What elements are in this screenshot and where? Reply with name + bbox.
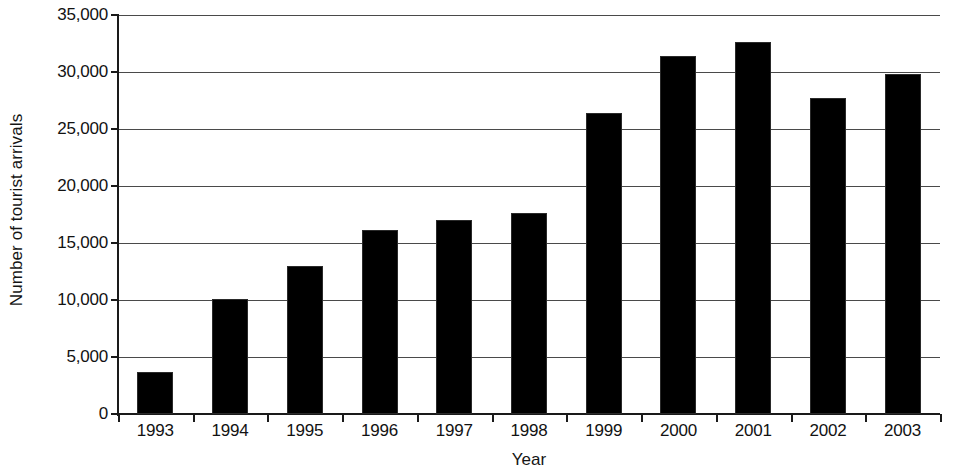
bar-1999 [586,113,622,414]
bar-1995 [287,266,323,414]
y-tick-label-30000: 30,000 [57,62,108,82]
bar-2002 [810,98,846,414]
x-tick-label-1993: 1993 [137,421,174,441]
y-tick-label-5000: 5,000 [66,347,108,367]
x-axis-title-text: Year [512,450,546,470]
y-tick-label-20000: 20,000 [57,176,108,196]
y-tick-mark-20000 [111,185,119,187]
x-tick-label-1995: 1995 [286,421,323,441]
y-tick-mark-25000 [111,128,119,130]
plot-area [118,15,940,414]
bar-1997 [436,220,472,414]
bar-chart-figure: Number of tourist arrivals 05,00010,0001… [0,0,960,475]
x-axis-title: Year [118,450,940,470]
bar-2003 [885,74,921,414]
bar-1993 [137,372,173,414]
x-tick-label-1999: 1999 [585,421,622,441]
bar-1994 [212,299,248,414]
x-tick-label-2003: 2003 [884,421,921,441]
x-tick-label-2002: 2002 [809,421,846,441]
x-tick-label-1994: 1994 [212,421,249,441]
bar-2001 [735,42,771,414]
y-tick-label-15000: 15,000 [57,233,108,253]
bar-1996 [362,230,398,414]
y-tick-label-25000: 25,000 [57,119,108,139]
bar-2000 [660,56,696,414]
y-tick-mark-35000 [111,14,119,16]
x-tick-label-1998: 1998 [510,421,547,441]
bar-1998 [511,213,547,414]
y-tick-mark-15000 [111,242,119,244]
y-tick-label-35000: 35,000 [57,5,108,25]
x-tick-label-1997: 1997 [436,421,473,441]
y-axis-title-text: Number of tourist arrivals [7,114,27,307]
x-tick-mark-11 [940,414,942,422]
y-tick-mark-0 [111,413,119,415]
y-tick-mark-10000 [111,299,119,301]
y-tick-mark-5000 [111,356,119,358]
x-tick-label-2001: 2001 [735,421,772,441]
x-axis-tick-labels: 1993199419951996199719981999200020012002… [118,421,940,447]
y-tick-label-10000: 10,000 [57,290,108,310]
y-tick-label-0: 0 [99,404,108,424]
bar-series [118,15,940,414]
x-tick-label-1996: 1996 [361,421,398,441]
y-tick-mark-30000 [111,71,119,73]
y-axis-title: Number of tourist arrivals [0,0,34,420]
y-axis-tick-labels: 05,00010,00015,00020,00025,00030,00035,0… [34,0,114,430]
x-tick-label-2000: 2000 [660,421,697,441]
